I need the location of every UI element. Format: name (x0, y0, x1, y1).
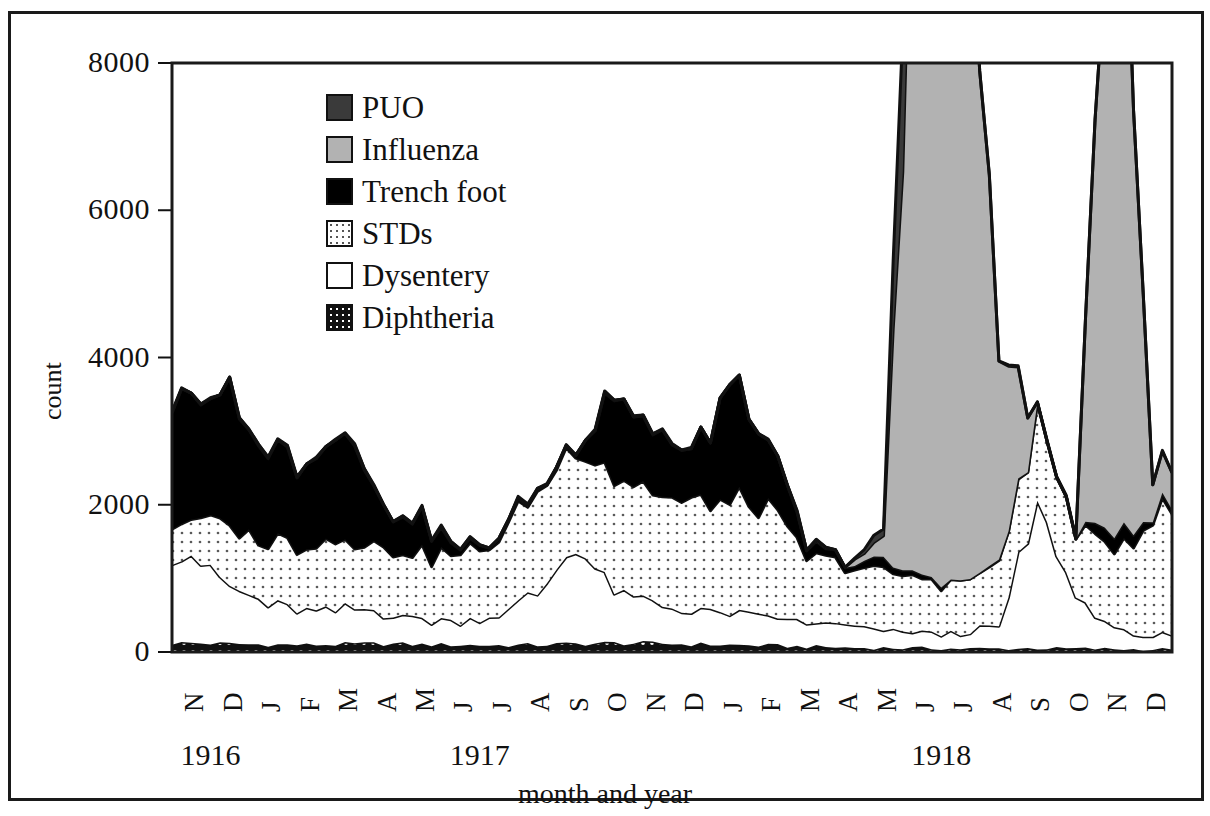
legend-label: Influenza (362, 134, 479, 165)
legend-label: PUO (362, 92, 424, 123)
legend-label: STDs (362, 218, 433, 249)
dysentery-swatch (326, 262, 353, 289)
influenza-swatch (326, 136, 353, 163)
chart-legend: PUOInfluenzaTrench footSTDsDysenteryDiph… (326, 86, 506, 338)
legend-item-puo: PUO (326, 86, 506, 128)
puo-swatch (326, 94, 353, 121)
stds-swatch (326, 220, 353, 247)
legend-item-stds: STDs (326, 212, 506, 254)
trench-foot-swatch (326, 178, 353, 205)
legend-item-influenza: Influenza (326, 128, 506, 170)
legend-label: Dysentery (362, 260, 489, 291)
diphtheria-swatch (326, 304, 353, 331)
legend-item-dysentery: Dysentery (326, 254, 506, 296)
chart-figure: count 02000400060008000 NDJFMAMJJASONDJF… (0, 0, 1210, 816)
legend-item-trench-foot: Trench foot (326, 170, 506, 212)
legend-item-diphtheria: Diphtheria (326, 296, 506, 338)
legend-label: Trench foot (362, 176, 506, 207)
stacked-area-plot (0, 0, 1210, 816)
legend-label: Diphtheria (362, 302, 495, 333)
